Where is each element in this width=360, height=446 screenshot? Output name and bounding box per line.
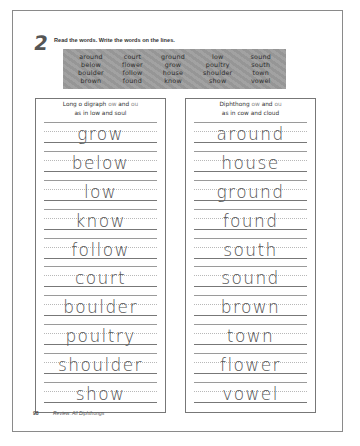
writing-line: vowel [194, 382, 307, 411]
word-bank-word: show [209, 77, 226, 85]
word-bank-word: ground [161, 53, 185, 61]
word-bank-word: court [124, 53, 142, 61]
word-bank-word: found [123, 77, 142, 85]
writing-line: sound [194, 266, 307, 295]
written-word: grow [44, 123, 157, 145]
writing-line: town [194, 324, 307, 353]
written-word: found [194, 210, 307, 232]
written-word: vowel [194, 383, 307, 405]
written-word: house [194, 152, 307, 174]
word-bank-word: flower [122, 61, 143, 69]
writing-line: south [194, 238, 307, 267]
written-word: shoulder [44, 354, 157, 376]
word-bank-column: ground grow house know [161, 49, 185, 89]
written-word: around [194, 123, 307, 145]
word-bank-word: low [212, 53, 224, 61]
word-bank-word: around [79, 53, 103, 61]
writing-line: house [194, 151, 307, 180]
written-word: flower [194, 354, 307, 376]
written-word: below [44, 152, 157, 174]
word-bank-word: sound [251, 53, 271, 61]
long-o-digraph-column: Long o digraph ow and ou as in low and s… [35, 98, 166, 413]
word-bank-word: poultry [206, 61, 230, 69]
writing-line: shoulder [44, 353, 157, 382]
writing-line: brown [194, 295, 307, 324]
written-word: town [194, 325, 307, 347]
word-bank-word: grow [165, 61, 181, 69]
instruction-text: Read the words. Write the words on the l… [54, 37, 175, 43]
column-heading: Long o digraph ow and ou as in low and s… [36, 99, 165, 118]
written-word: brown [194, 296, 307, 318]
page-number: 98 [33, 410, 39, 416]
writing-line: ground [194, 180, 307, 209]
written-word: south [194, 239, 307, 261]
word-bank-column: low poultry shoulder show [203, 49, 232, 89]
written-word: low [44, 181, 157, 203]
writing-line: follow [44, 238, 157, 267]
footer-text: Review: All Diphthongs [53, 410, 104, 416]
word-bank-word: brown [81, 77, 102, 85]
word-bank-word: below [81, 61, 101, 69]
writing-line: flower [194, 353, 307, 382]
written-word: know [44, 210, 157, 232]
written-word: court [44, 267, 157, 289]
word-bank-column: court flower follow found [122, 49, 143, 89]
written-word: poultry [44, 325, 157, 347]
written-word: show [44, 383, 157, 405]
written-word: boulder [44, 296, 157, 318]
word-bank-word: town [252, 69, 269, 77]
writing-line: show [44, 382, 157, 411]
word-bank-word: follow [122, 69, 142, 77]
writing-line: found [194, 209, 307, 238]
writing-line: below [44, 151, 157, 180]
column-heading: Diphthong ow and ou as in cow and cloud [186, 99, 315, 118]
writing-line: know [44, 209, 157, 238]
word-bank-column: around below boulder brown [78, 49, 104, 89]
word-bank-word: shoulder [203, 69, 232, 77]
writing-line: grow [44, 122, 157, 151]
writing-line: low [44, 180, 157, 209]
word-bank-word: house [163, 69, 183, 77]
word-bank: around below boulder brown court flower … [63, 49, 286, 89]
word-bank-column: sound south town vowel [251, 49, 271, 89]
written-word: follow [44, 239, 157, 261]
diphthong-column: Diphthong ow and ou as in cow and cloud … [185, 98, 316, 413]
written-word: sound [194, 267, 307, 289]
writing-line: boulder [44, 295, 157, 324]
written-word: ground [194, 181, 307, 203]
word-bank-word: boulder [78, 69, 104, 77]
word-bank-word: south [251, 61, 270, 69]
exercise-number: 2 [33, 33, 50, 53]
writing-line: court [44, 266, 157, 295]
writing-line: poultry [44, 324, 157, 353]
word-bank-word: vowel [251, 77, 271, 85]
writing-line: around [194, 122, 307, 151]
word-bank-word: know [164, 77, 182, 85]
